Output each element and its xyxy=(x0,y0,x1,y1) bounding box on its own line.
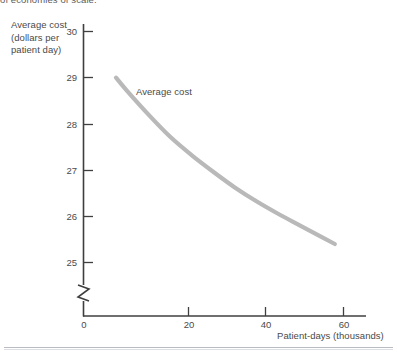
y-axis-title-line3: patient day) xyxy=(11,44,61,55)
chart-figure: Average cost (dollars per patient day) 3… xyxy=(0,0,397,358)
x-tick-label-20: 20 xyxy=(181,319,197,330)
x-tick-label-0: 0 xyxy=(76,319,92,330)
ghost-text-fragment xyxy=(252,339,392,346)
y-tick-label-28: 28 xyxy=(61,119,77,130)
series-annotation-average-cost: Average cost xyxy=(136,86,192,99)
x-tick-label-40: 40 xyxy=(258,319,274,330)
y-tick-label-30: 30 xyxy=(61,26,77,37)
average-cost-curve xyxy=(116,78,335,244)
y-tick-label-29: 29 xyxy=(61,72,77,83)
bottom-divider-shadow xyxy=(4,349,393,350)
y-tick-label-27: 27 xyxy=(61,165,77,176)
y-tick-marks xyxy=(84,32,93,263)
bottom-divider xyxy=(4,347,393,348)
y-tick-label-26: 26 xyxy=(61,211,77,222)
x-tick-label-60: 60 xyxy=(336,319,352,330)
x-tick-marks xyxy=(189,307,344,316)
y-axis-title-line1: Average cost xyxy=(11,19,67,30)
figure-page: of economies of scale. xyxy=(0,0,397,358)
y-axis-title-line2: (dollars per xyxy=(11,32,59,43)
y-tick-label-25: 25 xyxy=(61,257,77,268)
y-axis-title: Average cost (dollars per patient day) xyxy=(11,19,85,57)
y-axis-break-icon xyxy=(78,285,89,301)
